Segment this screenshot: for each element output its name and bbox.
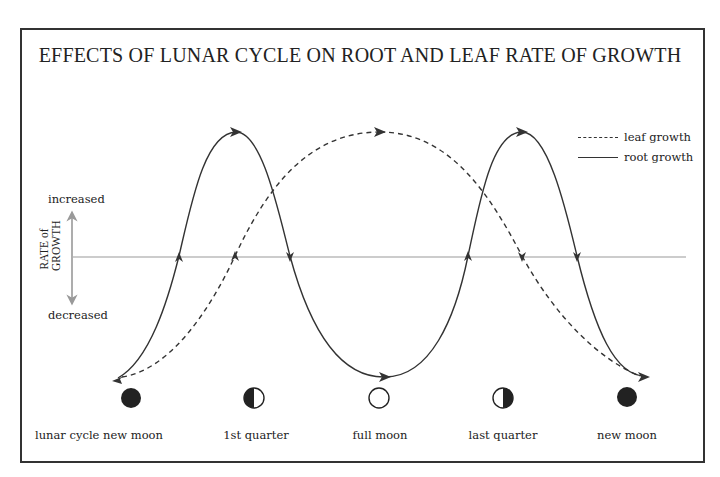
new-moon-icon <box>617 387 637 407</box>
dashed-line-icon <box>578 137 618 138</box>
legend-item-leaf: leaf growth <box>578 130 691 144</box>
y-axis-bottom-label: decreased <box>48 308 108 322</box>
x-axis-title: lunar cycle <box>35 428 99 442</box>
y-axis-title-line2: GROWTH <box>50 227 62 271</box>
root-growth-curve <box>118 132 645 378</box>
growth-curves <box>0 0 720 477</box>
phase-label-last-quarter: last quarter <box>469 428 538 442</box>
last-quarter-moon-icon <box>493 388 513 408</box>
legend-label-leaf: leaf growth <box>624 130 691 144</box>
y-axis-title: RATE of GROWTH <box>38 227 62 271</box>
solid-line-icon <box>578 157 618 158</box>
root-growth-arrows <box>112 127 650 384</box>
first-quarter-moon-icon <box>244 388 264 408</box>
y-axis-title-line1: RATE of <box>38 227 50 271</box>
moon-phases <box>121 387 637 408</box>
phase-label-first-quarter: 1st quarter <box>223 428 289 442</box>
y-axis-top-label: increased <box>48 192 105 206</box>
phase-label-full-moon: full moon <box>353 428 408 442</box>
new-moon-icon <box>121 388 141 408</box>
phase-label-new-moon-end: new moon <box>597 428 657 442</box>
full-moon-icon <box>369 388 389 408</box>
legend-label-root: root growth <box>624 150 693 164</box>
legend-item-root: root growth <box>578 150 693 164</box>
phase-label-new-moon: new moon <box>103 428 163 442</box>
leaf-growth-curve <box>122 132 640 377</box>
